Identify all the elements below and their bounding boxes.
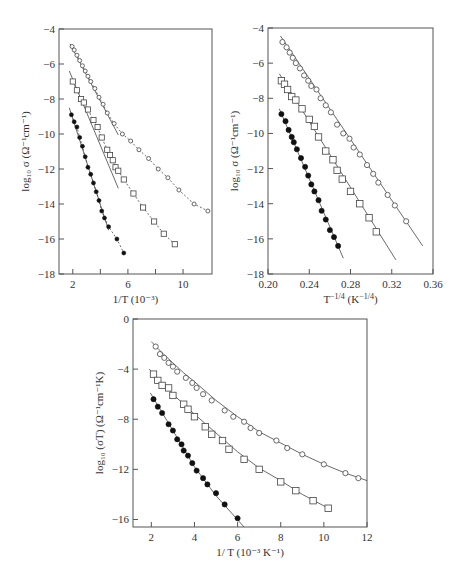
data-point-square — [85, 107, 90, 112]
data-point-filled — [205, 482, 210, 487]
data-point-circle — [75, 53, 79, 57]
data-point-square — [161, 231, 166, 236]
data-point-circle — [321, 462, 326, 467]
y-tick-label: −18 — [38, 268, 56, 280]
data-point-filled — [323, 217, 328, 222]
data-point-square — [306, 116, 312, 122]
data-point-square — [116, 168, 121, 173]
y-tick-label: −14 — [247, 198, 265, 210]
data-point-square — [110, 158, 115, 163]
data-point-circle — [364, 162, 369, 167]
series-circle-open — [70, 44, 210, 213]
dashed-guide-line — [73, 82, 175, 245]
data-point-square — [347, 188, 353, 194]
series-circle-filled — [150, 393, 244, 527]
data-point-circle — [183, 375, 188, 380]
data-point-circle — [156, 167, 160, 171]
data-point-filled — [107, 225, 111, 229]
x-tick-label: 0.20 — [258, 278, 278, 290]
data-point-square — [299, 106, 305, 112]
data-point-filled — [69, 113, 73, 117]
data-point-filled — [327, 227, 332, 232]
data-point-circle — [157, 351, 162, 356]
data-point-filled — [185, 453, 190, 458]
data-point-filled — [303, 164, 308, 169]
y-tick-label: −12 — [38, 163, 55, 175]
data-point-circle — [301, 73, 306, 78]
figure-canvas: −4−6−8−10−12−14−16−1826101/T (10⁻³)log₁₀… — [0, 0, 456, 574]
data-point-circle — [356, 476, 361, 481]
x-tick-label: 0.36 — [423, 278, 443, 290]
y-tick-label: −14 — [38, 198, 56, 210]
data-point-circle — [371, 171, 376, 176]
y-axis-label: log₁₀ σ (Ω⁻¹cm⁻¹) — [19, 111, 32, 192]
data-point-filled — [72, 120, 76, 124]
data-point-filled — [336, 243, 341, 248]
data-point-filled — [166, 422, 171, 427]
data-point-circle — [285, 445, 290, 450]
data-point-circle — [323, 103, 328, 108]
y-axis-label: log₁₀ σ (Ω⁻¹cm⁻¹) — [228, 111, 241, 192]
y-tick-label: −10 — [247, 127, 265, 139]
data-point-circle — [153, 344, 158, 349]
data-point-filled — [86, 165, 90, 169]
data-point-circle — [300, 452, 305, 457]
data-point-square — [241, 456, 247, 462]
data-point-square — [310, 497, 316, 503]
data-point-filled — [289, 134, 294, 139]
data-point-circle — [112, 122, 116, 126]
data-point-filled — [100, 209, 104, 213]
x-tick-label: 6 — [235, 531, 241, 543]
x-axis-label: T−1/4 (K−1/4) — [323, 292, 378, 306]
series-square-open — [278, 74, 396, 260]
data-point-filled — [294, 147, 299, 152]
x-tick-label: 0.24 — [300, 278, 320, 290]
y-tick-label: −8 — [117, 413, 129, 425]
data-point-square — [278, 479, 284, 485]
fit-line — [151, 342, 367, 481]
y-tick-label: −16 — [112, 513, 130, 525]
data-point-circle — [166, 176, 170, 180]
x-tick-label: 6 — [125, 278, 131, 290]
data-point-circle — [347, 136, 352, 141]
y-tick-label: −6 — [252, 57, 264, 69]
data-point-circle — [274, 438, 279, 443]
data-point-square — [373, 229, 379, 235]
data-point-square — [81, 100, 86, 105]
data-point-square — [140, 205, 145, 210]
data-point-circle — [376, 180, 381, 185]
data-point-square — [366, 215, 372, 221]
data-point-circle — [392, 203, 397, 208]
data-point-filled — [194, 468, 199, 473]
series-circle-open — [280, 36, 423, 246]
data-point-square — [105, 147, 110, 152]
x-tick-label: 8 — [278, 531, 284, 543]
data-point-circle — [78, 59, 82, 63]
y-tick-label: −8 — [252, 92, 264, 104]
data-point-filled — [331, 235, 336, 240]
data-point-circle — [385, 192, 390, 197]
data-point-square — [185, 406, 191, 412]
data-point-circle — [97, 95, 101, 99]
data-point-filled — [175, 437, 180, 442]
series-circle-filled — [279, 109, 343, 258]
data-point-circle — [200, 392, 205, 397]
data-point-filled — [97, 199, 101, 203]
data-point-circle — [231, 414, 236, 419]
data-point-square — [131, 191, 136, 196]
y-axis-label: log₁₀ (σT) (Ω⁻¹cm⁻¹K) — [93, 372, 106, 475]
data-point-filled — [316, 198, 321, 203]
data-point-circle — [351, 145, 356, 150]
data-point-filled — [91, 181, 95, 185]
data-point-square — [293, 97, 299, 103]
data-point-circle — [86, 74, 90, 78]
data-point-filled — [200, 476, 205, 481]
data-point-circle — [72, 48, 76, 52]
data-point-circle — [257, 430, 262, 435]
y-tick-label: −12 — [247, 163, 264, 175]
data-point-circle — [314, 87, 319, 92]
data-point-square — [191, 414, 197, 420]
data-point-square — [159, 382, 165, 388]
data-point-square — [315, 134, 321, 140]
data-point-filled — [83, 155, 87, 159]
